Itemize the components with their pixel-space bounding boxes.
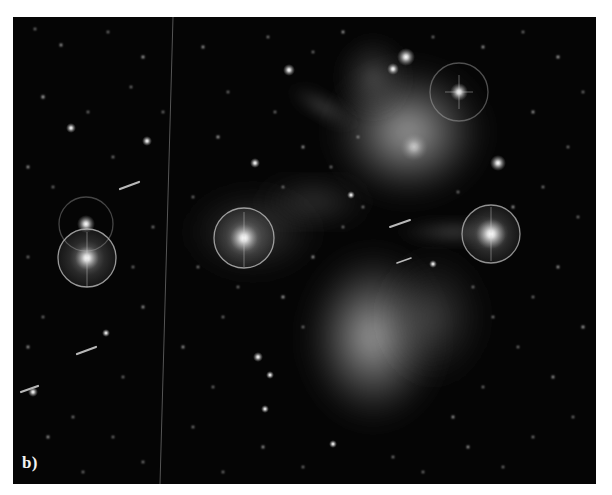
panel-label: b): [22, 453, 38, 473]
star-field: [13, 17, 596, 484]
pleiades-astrophoto: b): [13, 17, 596, 484]
scratch-line: [160, 17, 173, 484]
